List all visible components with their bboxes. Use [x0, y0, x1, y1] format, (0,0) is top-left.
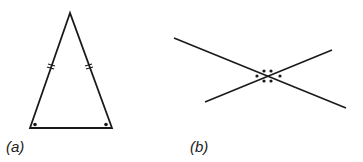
line-1: [174, 38, 346, 108]
base-angle-dots: [33, 123, 108, 127]
figure-a-label: (a): [6, 138, 24, 155]
isosceles-triangle: [30, 13, 112, 128]
figure-b-label: (b): [190, 138, 208, 155]
intersecting-lines: [174, 38, 346, 108]
diagram-canvas: [0, 0, 363, 162]
